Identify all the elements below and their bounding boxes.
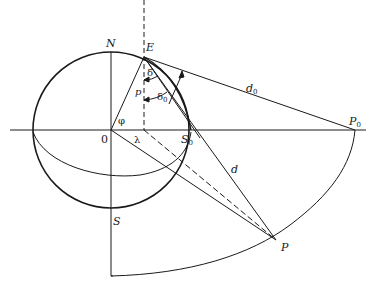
label-P0: P0	[349, 116, 361, 129]
label-phi: φ	[118, 116, 125, 126]
delta0-arrowhead	[144, 97, 149, 102]
line-O-P	[111, 130, 276, 240]
label-delta0: δ0	[157, 92, 168, 104]
label-lambda: λ	[134, 135, 140, 145]
tangent-angle-arrow	[169, 74, 182, 104]
label-O: 0	[101, 134, 108, 145]
label-d0: d0	[246, 83, 258, 96]
label-p: p	[135, 87, 141, 97]
label-N: N	[106, 38, 116, 49]
tangent-angle-arrowhead	[179, 71, 184, 78]
label-P: P	[281, 242, 288, 253]
equator-arc	[33, 132, 191, 176]
dashed-line-to-P	[144, 130, 276, 240]
label-S: S	[113, 216, 121, 227]
label-d: d	[231, 164, 238, 175]
label-S0: S0	[181, 134, 193, 147]
label-delta: δ	[147, 68, 153, 78]
outer-arc	[111, 130, 355, 276]
label-E: E	[146, 42, 154, 53]
